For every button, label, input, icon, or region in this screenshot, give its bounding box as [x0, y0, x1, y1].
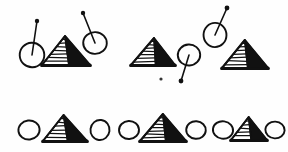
figure-container: Hand-drawn shape sequence figure Two row… [0, 0, 288, 152]
speck-0 [159, 77, 162, 80]
stray-marks-group [159, 77, 162, 80]
stem-dot [179, 79, 184, 84]
stem-dot [225, 6, 230, 11]
stem-dot [35, 19, 39, 23]
stem-dot [81, 11, 85, 15]
figure-canvas [0, 0, 288, 152]
